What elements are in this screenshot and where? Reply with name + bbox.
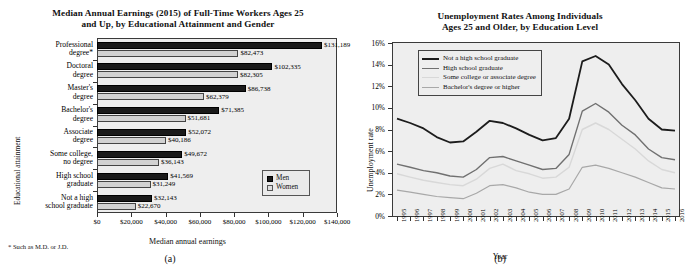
panel-b-x-tick-label-18: 2013	[638, 209, 645, 222]
bar-value-men-3: $71,385	[221, 107, 244, 114]
panel-b-title-line1: Unemployment Rates Among Individuals	[437, 11, 602, 21]
category-label-line2: degree	[73, 92, 93, 101]
category-label-line2: degree	[73, 70, 93, 79]
panel-b-legend-item-2: Some college or associate degree	[422, 73, 536, 83]
panel-b-x-tick-mark-21	[675, 217, 676, 221]
panel-b-x-tick-label-14: 2009	[585, 209, 592, 222]
y-tick-mark-2	[93, 104, 97, 105]
panel-b-title-line2: Ages 25 and Older, by Education Level	[442, 22, 598, 32]
bar-value-women-6: $31,249	[153, 181, 176, 188]
panel-b-x-tick-label-21: 2016	[678, 209, 685, 222]
panel-b-legend-line-icon-2	[422, 77, 439, 78]
panel-b-legend-label-1: High school graduate	[443, 64, 503, 74]
bar-value-women-5: $36,143	[161, 159, 184, 166]
category-label-7: Not a highschool graduate	[0, 194, 93, 211]
category-label-5: Some college,no degree	[0, 150, 93, 167]
panel-b-y-tick-label-3: 6%	[361, 147, 385, 156]
bar-value-women-0: $82,473	[240, 50, 263, 57]
panel-b-x-tick-label-19: 2014	[651, 209, 658, 222]
panel-b-y-tick-mark-8	[388, 43, 392, 44]
panel-b-x-tick-label-6: 2001	[479, 209, 486, 222]
panel-b-y-tick-label-2: 4%	[361, 168, 385, 177]
category-label-line2: school graduate	[45, 201, 93, 210]
y-tick-mark-5	[93, 169, 97, 170]
panel-b-x-tick-mark-17	[622, 217, 623, 221]
panel-b-x-tick-mark-18	[635, 217, 636, 221]
bar-value-men-7: $32,143	[154, 195, 177, 202]
line-series-1	[397, 104, 675, 178]
panel-b-x-tick-mark-3	[437, 217, 438, 221]
panel-b-legend-item-0: Not a high school graduate	[422, 54, 536, 64]
category-label-line2: degree	[73, 114, 93, 123]
panel-b-legend-line-icon-3	[422, 87, 439, 88]
x-tick-mark-6	[303, 213, 304, 217]
panel-b-legend-item-3: Bachelor's degree or higher	[422, 83, 536, 93]
panel-b-x-tick-label-9: 2004	[519, 209, 526, 222]
bar-men-6	[97, 173, 168, 180]
category-label-line2: graduate	[67, 179, 93, 188]
line-series-3	[397, 165, 675, 199]
panel-a-label: (a)	[140, 253, 200, 264]
bar-men-7	[97, 195, 152, 202]
panel-b-x-tick-mark-13	[569, 217, 570, 221]
legend-swatch-men-icon	[267, 176, 273, 182]
bar-value-women-2: $62,379	[206, 94, 229, 101]
x-tick-mark-1	[131, 213, 132, 217]
panel-b-x-tick-mark-2	[423, 217, 424, 221]
bar-value-men-6: $41,569	[170, 173, 193, 180]
bar-women-2	[97, 93, 204, 100]
panel-b-legend-label-2: Some college or associate degree	[443, 73, 536, 83]
bar-women-7	[97, 203, 136, 210]
bar-men-0	[97, 42, 322, 49]
panel-b-x-tick-label-15: 2010	[598, 209, 605, 222]
legend-item-women: Women	[267, 183, 305, 192]
panel-b-x-tick-mark-6	[476, 217, 477, 221]
bar-value-women-3: $51,681	[188, 115, 211, 122]
panel-b-x-tick-mark-11	[543, 217, 544, 221]
panel-b-x-tick-mark-20	[662, 217, 663, 221]
panel-b-y-tick-mark-3	[388, 151, 392, 152]
panel-b-y-tick-label-1: 2%	[361, 190, 385, 199]
y-tick-mark-4	[93, 147, 97, 148]
bar-women-5	[97, 159, 159, 166]
panel-a-title: Median Annual Earnings (2015) of Full-Ti…	[18, 8, 338, 30]
panel-b-y-axis-title: Unemployment rate	[366, 128, 375, 192]
panel-b-y-tick-label-6: 12%	[361, 82, 385, 91]
legend-swatch-women-icon	[267, 185, 273, 191]
panel-b-x-tick-label-13: 2008	[572, 209, 579, 222]
y-tick-mark-0	[93, 60, 97, 61]
panel-b-x-tick-mark-9	[516, 217, 517, 221]
panel-b-x-tick-mark-16	[609, 217, 610, 221]
panel-b-x-tick-mark-12	[556, 217, 557, 221]
panel-b-x-tick-label-8: 2003	[506, 209, 513, 222]
figure-container: Median Annual Earnings (2015) of Full-Ti…	[0, 0, 690, 277]
bar-men-1	[97, 63, 272, 70]
bar-value-women-1: $82,305	[240, 72, 263, 79]
category-label-4: Associatedegree	[0, 128, 93, 145]
panel-b-y-tick-mark-7	[388, 65, 392, 66]
panel-b-legend-line-icon-0	[422, 58, 439, 60]
bar-value-women-7: $22,670	[138, 203, 161, 210]
panel-b-x-tick-label-2: 1997	[426, 209, 433, 222]
panel-a-bar-chart: Median Annual Earnings (2015) of Full-Ti…	[0, 0, 345, 277]
bar-women-3	[97, 115, 186, 122]
panel-b-x-tick-label-5: 2000	[466, 209, 473, 222]
category-label-line2: degree*	[69, 48, 93, 57]
panel-b-y-tick-label-8: 16%	[361, 39, 385, 48]
panel-b-y-tick-label-4: 8%	[361, 125, 385, 134]
y-tick-mark-1	[93, 82, 97, 83]
panel-b-x-tick-mark-15	[596, 217, 597, 221]
x-tick-mark-5	[268, 213, 269, 217]
panel-a-title-line2: and Up, by Educational Attainment and Ge…	[81, 19, 274, 29]
panel-b-x-tick-mark-19	[649, 217, 650, 221]
panel-a-x-axis-title: Median annual earnings	[95, 237, 280, 246]
panel-b-legend-label-3: Bachelor's degree or higher	[443, 83, 520, 93]
panel-b-y-tick-mark-5	[388, 108, 392, 109]
panel-b-x-tick-mark-7	[490, 217, 491, 221]
category-label-line2: degree	[73, 135, 93, 144]
bar-value-men-1: $102,335	[274, 64, 300, 71]
panel-b-x-tick-label-7: 2002	[492, 209, 499, 222]
panel-b-x-tick-label-0: 1995	[400, 209, 407, 222]
panel-b-x-tick-mark-0	[397, 217, 398, 221]
x-tick-mark-0	[97, 213, 98, 217]
